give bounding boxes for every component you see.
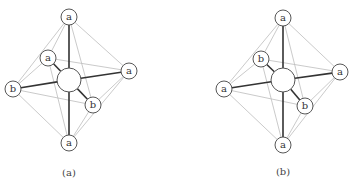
- octahedron-edge: [265, 25, 279, 52]
- octahedron-edge: [232, 91, 297, 105]
- diagram-caption: (b): [276, 166, 290, 177]
- ligand-node-front-right: b: [297, 98, 313, 114]
- ligand-node-back-left: a: [40, 50, 56, 66]
- octahedron-edge: [287, 113, 301, 138]
- ligand-node-top: a: [275, 10, 291, 26]
- ligand-label: a: [45, 52, 51, 63]
- octahedron-diagrams: aaabba(a)abaaba(b): [0, 0, 354, 186]
- octahedron-edge: [73, 112, 88, 136]
- diagram-a: aaabba(a): [5, 9, 137, 178]
- bond-spoke: [21, 82, 57, 88]
- octahedron-edge: [99, 76, 123, 99]
- diagram-b: abaaba(b): [216, 10, 348, 177]
- octahedron-edge: [229, 24, 278, 83]
- octahedron-edge: [21, 91, 85, 104]
- octahedron-edge: [18, 23, 64, 82]
- bond-spoke: [81, 72, 121, 78]
- bond-spoke: [77, 89, 87, 100]
- ligand-label: b: [302, 100, 308, 111]
- ligand-label: a: [280, 12, 286, 23]
- bond-spoke: [291, 89, 300, 100]
- octahedron-edge: [19, 95, 63, 138]
- diagram-caption: (a): [62, 167, 76, 178]
- ligand-label: b: [10, 83, 16, 94]
- ligand-label: a: [66, 11, 72, 22]
- ligand-node-top: a: [61, 9, 77, 25]
- ligand-label: a: [66, 137, 72, 148]
- ligand-label: a: [126, 65, 132, 76]
- ligand-node-right: a: [332, 64, 348, 80]
- ligand-label: a: [221, 83, 227, 94]
- ligand-label: a: [280, 139, 286, 150]
- ligand-node-bottom: a: [61, 135, 77, 151]
- bond-spoke: [232, 82, 271, 88]
- central-atom: [57, 68, 81, 92]
- octahedron-edge: [75, 22, 123, 65]
- ligand-label: b: [258, 53, 264, 64]
- octahedron-edge: [289, 24, 334, 67]
- ligand-node-left: b: [5, 81, 21, 97]
- octahedron-edge: [230, 95, 277, 140]
- bond-spoke: [267, 65, 275, 72]
- bond-spoke: [54, 64, 61, 72]
- ligand-node-bottom: a: [275, 137, 291, 153]
- ligand-label: a: [337, 66, 343, 77]
- ligand-label: b: [90, 99, 96, 110]
- ligand-node-front-right: b: [85, 97, 101, 113]
- octahedron-edge: [52, 24, 66, 51]
- bond-spoke: [295, 73, 332, 78]
- ligand-node-right: a: [121, 63, 137, 79]
- ligand-node-left: a: [216, 81, 232, 97]
- octahedron-edge: [311, 78, 335, 101]
- central-atom: [271, 68, 295, 92]
- ligand-node-back-left: b: [253, 51, 269, 67]
